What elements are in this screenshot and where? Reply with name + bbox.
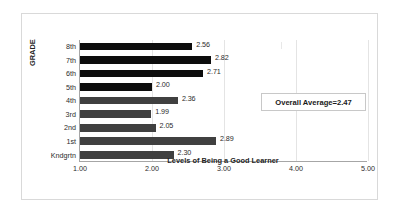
bar (80, 56, 211, 64)
category-label: 2nd (64, 123, 76, 132)
x-tick-label: 3.00 (217, 164, 231, 173)
bar-value-label: 2.71 (207, 67, 221, 76)
bar (80, 110, 151, 118)
x-axis-title: Levels of Being a Good Learner (79, 156, 367, 165)
bar-row: 2nd2.05 (80, 121, 367, 135)
bar-value-label: 1.99 (155, 107, 169, 116)
category-label: 8th (66, 42, 76, 51)
category-label: 1st (66, 137, 76, 146)
bar-row: 1st2.89 (80, 135, 367, 149)
bar-row: 6th2.71 (80, 67, 367, 81)
bar-value-label: 2.89 (220, 134, 234, 143)
x-tick-label: 1.00 (73, 164, 87, 173)
bar (80, 70, 203, 78)
overall-average-callout: Overall Average=2.47 (261, 93, 366, 111)
x-tick-label: 2.00 (145, 164, 159, 173)
bar (80, 43, 192, 51)
chart-frame: GRADE Kndgrtn2.301st2.892nd2.053rd1.994t… (21, 13, 378, 200)
bar-value-label: 2.36 (182, 94, 196, 103)
bar-value-label: 2.82 (215, 53, 229, 62)
bar-value-label: 2.05 (160, 121, 174, 130)
bar (80, 83, 152, 91)
category-label: 4th (66, 96, 76, 105)
category-label: Kndgrtn (51, 151, 76, 160)
category-label: 3rd (66, 110, 76, 119)
bar (80, 124, 156, 132)
bar-value-label: 2.56 (196, 40, 210, 49)
x-tick-label: 4.00 (289, 164, 303, 173)
category-label: 6th (66, 69, 76, 78)
x-tick-label: 5.00 (361, 164, 375, 173)
gridline (368, 40, 369, 161)
category-label: 5th (66, 83, 76, 92)
category-label: 7th (66, 56, 76, 65)
bar-row: 8th2.56 (80, 40, 367, 54)
bar (80, 97, 178, 105)
y-axis-title: GRADE (28, 39, 37, 66)
bar-row: 7th2.82 (80, 54, 367, 68)
overall-average-label: Overall Average=2.47 (275, 98, 351, 107)
bar-value-label: 2.00 (156, 80, 170, 89)
bar (80, 137, 216, 145)
